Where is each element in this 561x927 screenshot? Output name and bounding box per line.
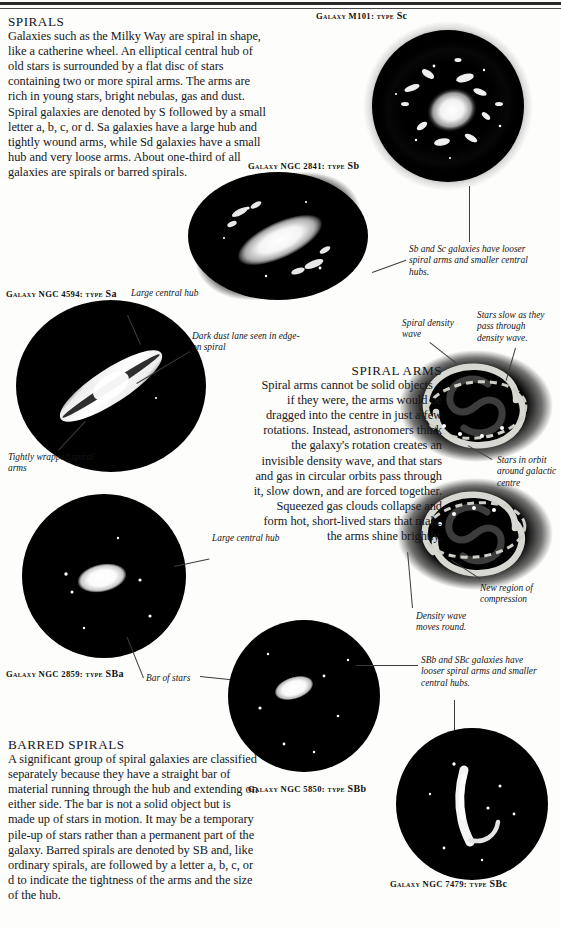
caption-m101-prefix: Galaxy M101: type bbox=[316, 11, 397, 21]
annotation-sbb-sbc-note: SBb and SBc galaxies have looser spiral … bbox=[421, 655, 543, 689]
caption-ngc2841-type: Sb bbox=[347, 160, 359, 171]
galaxy-ngc4594-render bbox=[16, 300, 206, 472]
annotation-dark-dust-lane: Dark dust lane seen in edge-on spiral bbox=[192, 331, 302, 354]
body-spirals: Galaxies such as the Milky Way are spira… bbox=[8, 29, 270, 180]
galaxy-ngc7479-render bbox=[396, 728, 548, 880]
body-spiral-arms: Spiral arms cannot be solid objects – if… bbox=[252, 378, 442, 544]
caption-m101: Galaxy M101: type Sc bbox=[316, 10, 407, 21]
top-rule-thin bbox=[0, 8, 561, 9]
caption-ngc7479: Galaxy NGC 7479: type SBc bbox=[390, 878, 507, 889]
caption-ngc5850-prefix: Galaxy NGC 5850: type bbox=[248, 784, 347, 794]
heading-barred-spirals: BARRED SPIRALS bbox=[8, 737, 260, 752]
galaxy-image-ngc2841 bbox=[188, 172, 368, 300]
caption-ngc4594-type: Sa bbox=[105, 288, 116, 299]
caption-ngc2859-prefix: Galaxy NGC 2859: type bbox=[6, 669, 105, 679]
galaxy-image-ngc4594 bbox=[16, 300, 206, 472]
galaxy-image-ngc2859 bbox=[22, 494, 186, 658]
heading-spiral-arms: SPIRAL ARMS bbox=[252, 363, 442, 378]
annotation-bar-of-stars: Bar of stars bbox=[146, 673, 216, 684]
leader-m101-to-note bbox=[469, 186, 470, 242]
annotation-new-region: New region of compression bbox=[480, 583, 552, 606]
annotation-density-wave-moves: Density wave moves round. bbox=[416, 611, 486, 634]
section-spirals: SPIRALS Galaxies such as the Milky Way a… bbox=[8, 14, 270, 180]
annotation-spiral-density-wave: Spiral density wave bbox=[402, 318, 468, 341]
page-root: Galaxy M101: type Sc bbox=[0, 0, 561, 927]
caption-ngc4594-prefix: Galaxy NGC 4594: type bbox=[6, 289, 105, 299]
galaxy-ngc2859-render bbox=[22, 494, 186, 658]
caption-ngc2859: Galaxy NGC 2859: type SBa bbox=[6, 668, 124, 679]
heading-spirals: SPIRALS bbox=[8, 14, 270, 29]
caption-ngc7479-prefix: Galaxy NGC 7479: type bbox=[390, 879, 489, 889]
annotation-tightly-wrapped: Tightly wrapped spiral arms bbox=[8, 452, 98, 475]
galaxy-ngc2841-render bbox=[188, 172, 368, 300]
caption-ngc4594: Galaxy NGC 4594: type Sa bbox=[6, 288, 117, 299]
section-barred-spirals: BARRED SPIRALS A significant group of sp… bbox=[8, 737, 260, 903]
caption-ngc7479-type: SBc bbox=[489, 878, 507, 889]
annotation-sb-sc-note: Sb and Sc galaxies have looser spiral ar… bbox=[409, 244, 541, 278]
body-barred-spirals: A significant group of spiral galaxies a… bbox=[8, 752, 260, 903]
galaxy-image-m101 bbox=[372, 30, 524, 182]
annotation-large-central-hub-top: Large central hub bbox=[131, 288, 211, 299]
top-rule-thick bbox=[0, 2, 561, 5]
section-spiral-arms: SPIRAL ARMS Spiral arms cannot be solid … bbox=[252, 363, 442, 544]
caption-ngc5850-type: SBb bbox=[347, 783, 366, 794]
caption-ngc2859-type: SBa bbox=[105, 668, 123, 679]
caption-m101-type: Sc bbox=[397, 10, 408, 21]
galaxy-m101-render bbox=[372, 30, 524, 182]
leader-ngc2841-to-note bbox=[372, 260, 406, 273]
leader-ngc5850-to-note bbox=[356, 665, 418, 666]
galaxy-image-ngc7479 bbox=[396, 728, 548, 880]
caption-ngc5850: Galaxy NGC 5850: type SBb bbox=[248, 783, 366, 794]
annotation-stars-slow: Stars slow as they pass through density … bbox=[477, 310, 553, 344]
